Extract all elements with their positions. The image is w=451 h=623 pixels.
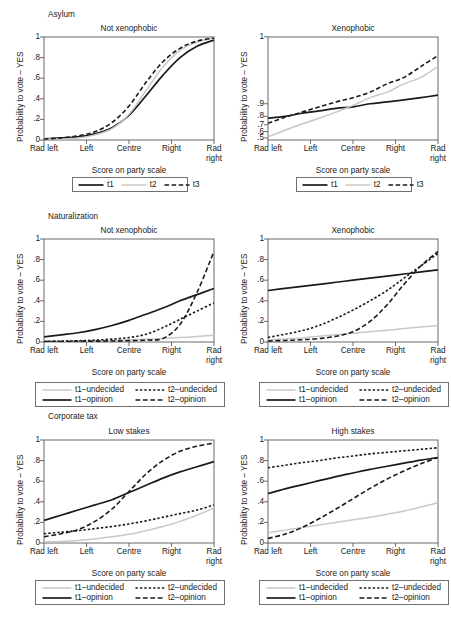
legend-label: t2–undecided — [392, 583, 441, 592]
panel-title-naturalization-xenophobic: Xenophobic — [268, 226, 438, 235]
legend-line-sample — [121, 182, 147, 188]
panel-title-corporate-tax-low-stakes: Low stakes — [44, 427, 214, 436]
legend-label: t2 — [150, 180, 157, 189]
legend-item-t1-opinion[interactable]: t1–opinion — [266, 395, 349, 404]
group-title-asylum: Asylum — [48, 10, 75, 19]
panel-title-asylum-not-xenophobic: Not xenophobic — [44, 24, 214, 33]
legend-line-sample — [266, 397, 296, 403]
x-axis-label-asylum-not-xenophobic: Score on party scale — [44, 166, 214, 175]
legend-item-t2-opinion[interactable]: t2–opinion — [359, 593, 442, 602]
legend-label: t1–undecided — [299, 583, 348, 592]
figure-panel-grid: AsylumNot xenophobicProbability to vote … — [0, 0, 451, 623]
legend-item-t1[interactable]: t1 — [302, 180, 338, 189]
legend-label: t3 — [193, 180, 200, 189]
plot-area-corporate-tax-high-stakes — [262, 439, 446, 550]
legend-label: t1–opinion — [299, 395, 337, 404]
legend-item-t2-undecided[interactable]: t2–undecided — [135, 583, 218, 592]
legend-label: t1–undecided — [75, 385, 124, 394]
legend-label: t2–undecided — [168, 385, 217, 394]
legend-item-t3[interactable]: t3 — [388, 180, 424, 189]
legend-line-sample — [359, 397, 389, 403]
legend-line-sample — [164, 182, 190, 188]
x-axis-label-corporate-tax-low-stakes: Score on party scale — [44, 569, 214, 578]
legend-label: t1–opinion — [75, 395, 113, 404]
legend-label: t1 — [107, 180, 114, 189]
legend-label: t1–opinion — [299, 593, 337, 602]
plot-area-asylum-not-xenophobic — [38, 36, 222, 147]
legend-line-sample — [135, 585, 165, 591]
legend-line-sample — [42, 585, 72, 591]
legend-naturalization-xenophobic: t1–undecidedt2–undecidedt1–opiniont2–opi… — [259, 382, 449, 407]
legend-line-sample — [42, 387, 72, 393]
legend-item-t1-undecided[interactable]: t1–undecided — [42, 385, 125, 394]
legend-item-t2[interactable]: t2 — [345, 180, 381, 189]
legend-item-t2-undecided[interactable]: t2–undecided — [359, 385, 442, 394]
legend-label: t2–opinion — [392, 593, 430, 602]
legend-line-sample — [266, 585, 296, 591]
legend-item-t2[interactable]: t2 — [121, 180, 157, 189]
legend-line-sample — [388, 182, 414, 188]
legend-item-t1-undecided[interactable]: t1–undecided — [42, 583, 125, 592]
legend-label: t1 — [331, 180, 338, 189]
legend-asylum-xenophobic: t1t2t3 — [296, 177, 412, 192]
plot-area-naturalization-xenophobic — [262, 238, 446, 349]
panel-title-naturalization-not-xenophobic: Not xenophobic — [44, 226, 214, 235]
legend-item-t1-opinion[interactable]: t1–opinion — [42, 593, 125, 602]
legend-line-sample — [302, 182, 328, 188]
plot-area-naturalization-not-xenophobic — [38, 238, 222, 349]
legend-item-t2-opinion[interactable]: t2–opinion — [135, 395, 218, 404]
legend-line-sample — [359, 585, 389, 591]
legend-item-t1[interactable]: t1 — [78, 180, 114, 189]
legend-line-sample — [135, 397, 165, 403]
legend-label: t2–opinion — [168, 593, 206, 602]
x-axis-label-corporate-tax-high-stakes: Score on party scale — [268, 569, 438, 578]
legend-item-t3[interactable]: t3 — [164, 180, 200, 189]
legend-line-sample — [359, 595, 389, 601]
legend-line-sample — [266, 387, 296, 393]
x-axis-label-naturalization-xenophobic: Score on party scale — [268, 368, 438, 377]
group-title-corporate-tax: Corporate tax — [48, 412, 98, 421]
plot-area-asylum-xenophobic — [262, 36, 446, 147]
legend-naturalization-not-xenophobic: t1–undecidedt2–undecidedt1–opiniont2–opi… — [35, 382, 225, 407]
legend-line-sample — [135, 387, 165, 393]
legend-label: t1–opinion — [75, 593, 113, 602]
legend-label: t3 — [417, 180, 424, 189]
legend-label: t2–opinion — [168, 395, 206, 404]
legend-line-sample — [42, 595, 72, 601]
legend-item-t1-opinion[interactable]: t1–opinion — [42, 395, 125, 404]
legend-item-t2-undecided[interactable]: t2–undecided — [359, 583, 442, 592]
legend-item-t1-opinion[interactable]: t1–opinion — [266, 593, 349, 602]
legend-item-t2-opinion[interactable]: t2–opinion — [135, 593, 218, 602]
legend-corporate-tax-low-stakes: t1–undecidedt2–undecidedt1–opiniont2–opi… — [35, 580, 225, 605]
x-axis-label-asylum-xenophobic: Score on party scale — [268, 166, 438, 175]
legend-label: t2–opinion — [392, 395, 430, 404]
x-axis-label-naturalization-not-xenophobic: Score on party scale — [44, 368, 214, 377]
plot-area-corporate-tax-low-stakes — [38, 439, 222, 550]
legend-line-sample — [345, 182, 371, 188]
legend-line-sample — [266, 595, 296, 601]
legend-label: t2–undecided — [392, 385, 441, 394]
legend-corporate-tax-high-stakes: t1–undecidedt2–undecidedt1–opiniont2–opi… — [259, 580, 449, 605]
legend-line-sample — [135, 595, 165, 601]
legend-label: t1–undecided — [75, 583, 124, 592]
legend-line-sample — [78, 182, 104, 188]
legend-label: t2 — [374, 180, 381, 189]
legend-item-t1-undecided[interactable]: t1–undecided — [266, 583, 349, 592]
panel-title-corporate-tax-high-stakes: High stakes — [268, 427, 438, 436]
legend-label: t1–undecided — [299, 385, 348, 394]
legend-line-sample — [359, 387, 389, 393]
legend-item-t2-undecided[interactable]: t2–undecided — [135, 385, 218, 394]
legend-line-sample — [42, 397, 72, 403]
legend-item-t2-opinion[interactable]: t2–opinion — [359, 395, 442, 404]
group-title-naturalization: Naturalization — [48, 212, 98, 221]
panel-title-asylum-xenophobic: Xenophobic — [268, 24, 438, 33]
legend-asylum-not-xenophobic: t1t2t3 — [72, 177, 188, 192]
legend-item-t1-undecided[interactable]: t1–undecided — [266, 385, 349, 394]
legend-label: t2–undecided — [168, 583, 217, 592]
